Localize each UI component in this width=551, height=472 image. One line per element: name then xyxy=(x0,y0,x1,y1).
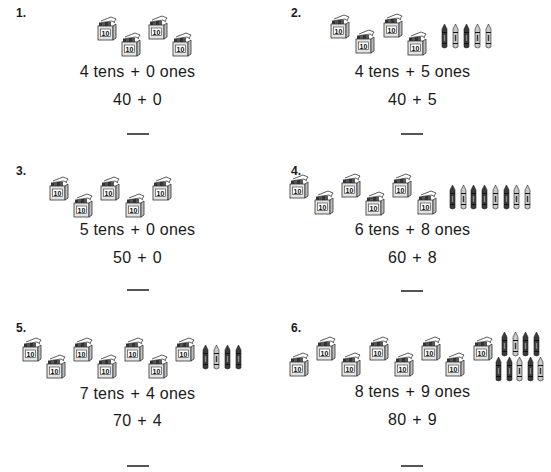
answer-blank[interactable] xyxy=(127,465,149,467)
crayon-box-ten-icon: 10 xyxy=(125,191,145,217)
crayon-box-ten-icon: 10 xyxy=(289,350,309,376)
crayon-one-icon xyxy=(533,332,539,356)
manipulatives: 10 10 10 10 xyxy=(0,158,275,228)
ones-value: 9 xyxy=(428,411,437,428)
tens-value: 40 xyxy=(388,91,406,108)
tens-value: 80 xyxy=(388,411,406,428)
problem-6: 6. 10 10 10 xyxy=(275,315,550,470)
crayon-one-icon xyxy=(492,185,498,209)
crayon-one-icon xyxy=(224,345,230,369)
ones-value: 8 xyxy=(428,249,437,266)
crayon-box-ten-icon: 10 xyxy=(314,188,334,214)
ones-text: 4 ones xyxy=(146,385,195,402)
svg-text:10: 10 xyxy=(450,366,458,373)
crayon-box-ten-icon: 10 xyxy=(152,174,172,200)
crayon-one-icon xyxy=(213,345,219,369)
svg-text:10: 10 xyxy=(27,351,35,358)
crayon-box-ten-icon: 10 xyxy=(369,334,389,360)
crayon-box-ten-icon: 10 xyxy=(97,352,117,378)
crayon-one-icon xyxy=(460,185,466,209)
problem-5: 5. 10 10 10 xyxy=(0,315,275,470)
expanded-form: 80+9 xyxy=(275,411,550,429)
crayon-one-icon xyxy=(495,357,501,381)
svg-text:10: 10 xyxy=(388,27,396,34)
answer-blank[interactable] xyxy=(401,465,423,467)
crayon-box-ten-icon: 10 xyxy=(383,11,403,37)
crayon-box-ten-icon: 10 xyxy=(316,334,336,360)
crayon-box-ten-icon: 10 xyxy=(73,335,93,361)
plus-sign: + xyxy=(412,91,422,108)
answer-blank[interactable] xyxy=(127,289,149,291)
crayon-one-icon xyxy=(441,24,447,48)
svg-text:10: 10 xyxy=(422,204,430,211)
svg-text:10: 10 xyxy=(321,350,329,357)
tens-value: 60 xyxy=(388,249,406,266)
svg-text:10: 10 xyxy=(102,30,110,37)
crayon-one-icon xyxy=(470,185,476,209)
svg-text:10: 10 xyxy=(399,366,407,373)
tens-value: 40 xyxy=(113,91,131,108)
crayon-box-ten-icon: 10 xyxy=(175,335,195,361)
manipulatives: 10 10 10 10 xyxy=(275,315,550,385)
problem-1: 1. 10 10 10 xyxy=(0,0,275,155)
crayon-box-ten-icon: 10 xyxy=(394,350,414,376)
plus-sign: + xyxy=(412,249,422,266)
plus-sign: + xyxy=(137,91,147,108)
svg-text:10: 10 xyxy=(157,190,165,197)
svg-text:10: 10 xyxy=(130,207,138,214)
svg-text:10: 10 xyxy=(478,350,486,357)
crayon-box-ten-icon: 10 xyxy=(421,334,441,360)
crayon-one-icon xyxy=(202,345,208,369)
crayon-box-ten-icon: 10 xyxy=(121,30,141,56)
crayon-box-ten-icon: 10 xyxy=(148,13,168,39)
crayon-box-ten-icon: 10 xyxy=(417,188,437,214)
crayon-box-ten-icon: 10 xyxy=(355,27,375,53)
ones-text: 8 ones xyxy=(421,221,470,238)
svg-text:10: 10 xyxy=(105,190,113,197)
problem-2: 2. 10 10 10 xyxy=(275,0,550,155)
tens-text: 5 tens xyxy=(80,221,125,238)
svg-text:10: 10 xyxy=(319,204,327,211)
svg-text:10: 10 xyxy=(129,351,137,358)
crayon-one-icon xyxy=(501,332,507,356)
ones-text: 0 ones xyxy=(146,63,195,80)
svg-text:10: 10 xyxy=(294,366,302,373)
crayon-box-ten-icon: 10 xyxy=(46,352,66,378)
svg-text:10: 10 xyxy=(78,207,86,214)
plus-sign: + xyxy=(406,63,416,80)
svg-text:10: 10 xyxy=(153,29,161,36)
svg-text:10: 10 xyxy=(126,46,134,53)
svg-text:10: 10 xyxy=(335,28,343,35)
crayon-box-ten-icon: 10 xyxy=(22,335,42,361)
crayon-one-icon xyxy=(449,185,455,209)
ones-text: 5 ones xyxy=(421,63,470,80)
svg-text:10: 10 xyxy=(177,46,185,53)
crayon-box-ten-icon: 10 xyxy=(289,172,309,198)
svg-text:10: 10 xyxy=(397,187,405,194)
crayon-box-ten-icon: 10 xyxy=(445,350,465,376)
answer-blank[interactable] xyxy=(401,133,423,135)
svg-text:10: 10 xyxy=(346,187,354,194)
crayon-one-icon xyxy=(474,24,480,48)
tens-ones-expression: 4 tens+5 ones xyxy=(275,63,550,81)
crayon-one-icon xyxy=(524,185,530,209)
ones-value: 4 xyxy=(153,412,162,429)
ones-value: 5 xyxy=(428,91,437,108)
tens-text: 4 tens xyxy=(80,63,125,80)
problem-3: 3. 10 10 10 xyxy=(0,158,275,313)
svg-text:10: 10 xyxy=(54,190,62,197)
tens-ones-expression: 6 tens+8 ones xyxy=(275,221,550,239)
crayon-one-icon xyxy=(537,357,543,381)
crayon-box-ten-icon: 10 xyxy=(124,335,144,361)
svg-text:10: 10 xyxy=(426,350,434,357)
answer-blank[interactable] xyxy=(127,133,149,135)
plus-sign: + xyxy=(412,411,422,428)
answer-blank[interactable] xyxy=(401,290,423,292)
tens-ones-expression: 7 tens+4 ones xyxy=(0,385,275,403)
ones-value: 0 xyxy=(153,249,162,266)
plus-sign: + xyxy=(406,221,416,238)
crayon-box-ten-icon: 10 xyxy=(341,171,361,197)
crayon-one-icon xyxy=(235,345,241,369)
ones-text: 0 ones xyxy=(146,221,195,238)
svg-text:10: 10 xyxy=(180,351,188,358)
